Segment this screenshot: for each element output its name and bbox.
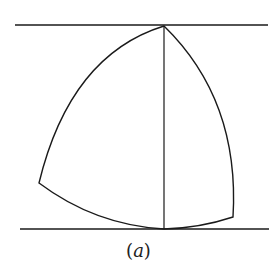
curved-triangle — [39, 26, 234, 229]
figure-caption: (a) — [0, 240, 277, 261]
diagram-canvas — [0, 0, 277, 272]
